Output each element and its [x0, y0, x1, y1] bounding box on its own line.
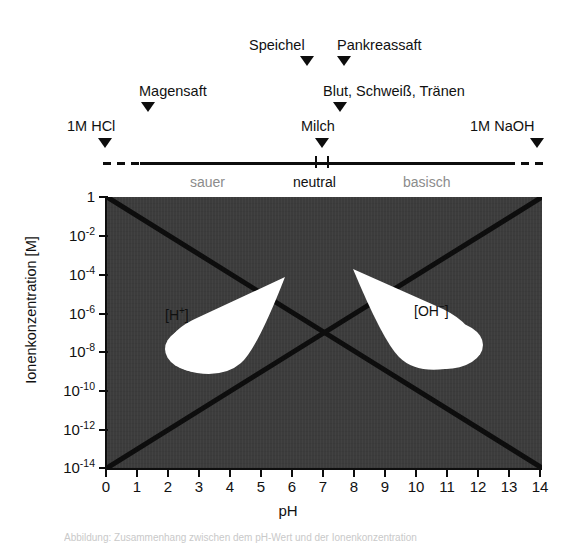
y-tick-1 [99, 235, 108, 237]
x-tick-label-8: 8 [350, 479, 358, 494]
x-tick-11 [446, 469, 448, 477]
callout-balloon-h-plus [165, 277, 285, 374]
x-tick-8 [353, 469, 355, 477]
x-tick-13 [508, 469, 510, 477]
x-tick-label-2: 2 [164, 479, 172, 494]
scale-bar-dash-left [103, 162, 141, 165]
x-tick-7 [322, 469, 324, 477]
x-tick-label-11: 11 [439, 479, 455, 494]
annotation-label-blut-schweiss-traenen: Blut, Schweiß, Tränen [323, 84, 465, 99]
annotation-label-pankreassaft: Pankreassaft [337, 38, 422, 53]
x-tick-label-0: 0 [102, 479, 110, 494]
y-tick-4 [99, 351, 108, 353]
callout-h-plus-tail: ] [185, 307, 189, 323]
ph-scale-bar [103, 158, 545, 170]
x-tick-3 [198, 469, 200, 477]
y-tick-label-5: 10-10 [63, 383, 95, 398]
x-tick-6 [291, 469, 293, 477]
x-tick-label-13: 13 [501, 479, 518, 494]
figure-caption: Abbildung: Zusammenhang zwischen dem pH-… [64, 532, 564, 543]
annotation-marker-speichel [300, 56, 314, 66]
y-tick-3 [99, 313, 108, 315]
x-tick-1 [136, 469, 138, 477]
y-tick-label-6: 10-12 [63, 422, 95, 437]
x-tick-label-1: 1 [133, 479, 141, 494]
y-tick-label-7: 10-14 [63, 460, 95, 475]
annotation-marker-magensaft [141, 102, 155, 112]
annotation-marker-hcl [98, 138, 112, 148]
callout-oh-minus-tail: ] [445, 303, 449, 319]
callout-label-h-plus: [H+] [165, 308, 189, 322]
y-tick-6 [99, 429, 108, 431]
x-axis-title: pH [0, 502, 576, 519]
ph-scale-figure: Speichel Pankreassaft Magensaft Blut, Sc… [0, 0, 576, 545]
x-tick-0 [105, 469, 107, 477]
scale-bar-solid [140, 162, 508, 165]
x-tick-14 [539, 469, 541, 477]
x-tick-12 [477, 469, 479, 477]
y-tick-2 [99, 274, 108, 276]
x-tick-5 [260, 469, 262, 477]
x-tick-label-14: 14 [532, 479, 549, 494]
y-tick-label-4: 10-8 [69, 344, 95, 359]
annotation-label-naoh: 1M NaOH [470, 119, 534, 134]
y-tick-label-2: 10-4 [69, 267, 95, 282]
plot-area [105, 197, 542, 470]
x-tick-10 [415, 469, 417, 477]
x-tick-label-3: 3 [195, 479, 203, 494]
scale-bar-dash-right [507, 162, 547, 165]
x-tick-4 [229, 469, 231, 477]
zone-label-basisch: basisch [403, 175, 450, 189]
plot-lines-svg [107, 197, 542, 468]
callout-oh-minus-base: [OH [414, 303, 439, 319]
y-tick-label-1: 10-2 [69, 228, 95, 243]
x-tick-label-7: 7 [319, 479, 327, 494]
y-tick-5 [99, 390, 108, 392]
callout-h-plus-base: [H [165, 307, 179, 323]
callout-balloon-oh-minus [353, 269, 483, 370]
annotation-label-milch: Milch [301, 119, 335, 134]
x-tick-label-5: 5 [257, 479, 265, 494]
x-tick-label-12: 12 [470, 479, 487, 494]
y-tick-0 [99, 196, 108, 198]
scale-bar-neutral-tick-right [327, 156, 329, 168]
y-tick-label-3: 10-6 [69, 306, 95, 321]
zone-label-sauer: sauer [190, 175, 225, 189]
x-tick-label-6: 6 [288, 479, 296, 494]
x-tick-2 [167, 469, 169, 477]
annotation-marker-pankreassaft [337, 56, 351, 66]
annotation-label-hcl: 1M HCl [67, 119, 115, 134]
scale-bar-neutral-tick-left [315, 156, 317, 168]
y-axis-title: Ionenkonzentration [M] [23, 195, 39, 425]
zone-label-neutral: neutral [293, 175, 336, 189]
annotation-label-magensaft: Magensaft [139, 84, 207, 99]
x-tick-label-10: 10 [408, 479, 425, 494]
callout-label-oh-minus: [OH−] [414, 304, 449, 318]
x-tick-9 [384, 469, 386, 477]
annotation-marker-blut-schweiss-traenen [333, 102, 347, 112]
x-tick-label-4: 4 [226, 479, 234, 494]
y-tick-label-0: 1 [87, 189, 95, 204]
annotation-marker-naoh [530, 138, 544, 148]
annotation-marker-milch [315, 138, 329, 148]
x-tick-label-9: 9 [381, 479, 389, 494]
annotation-label-speichel: Speichel [249, 38, 305, 53]
